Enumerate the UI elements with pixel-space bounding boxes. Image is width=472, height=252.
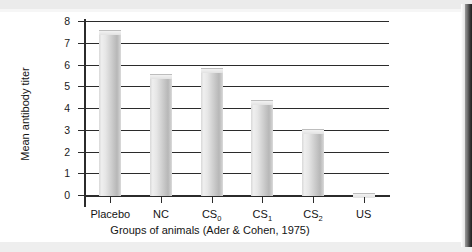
y-axis-tick-label: 2 [50, 147, 70, 157]
bar-top-cap [150, 75, 172, 79]
y-axis-tick-label: 7 [50, 38, 70, 48]
scan-band-top [0, 0, 472, 9]
bar-top-cap [201, 69, 223, 73]
x-axis-tick [262, 197, 263, 203]
bar [302, 129, 324, 196]
bar [150, 74, 172, 196]
y-axis-tick-label: 1 [50, 168, 70, 178]
y-axis-tick-label: 6 [50, 60, 70, 70]
y-axis-tick [78, 65, 85, 66]
bar-top-cap [251, 101, 273, 105]
x-axis-tick [110, 197, 111, 203]
x-axis-title: Groups of animals (Ader & Cohen, 1975) [0, 224, 420, 236]
y-axis-tick [78, 130, 85, 131]
bar [201, 68, 223, 196]
y-axis-tick-label: 0 [50, 190, 70, 200]
y-axis-tick [78, 152, 85, 153]
bar [99, 30, 121, 196]
x-axis-tick [313, 197, 314, 203]
x-axis-tick [212, 197, 213, 203]
y-axis-tick-label: 8 [50, 16, 70, 26]
y-axis-tick [78, 86, 85, 87]
x-axis-tick [161, 197, 162, 203]
scan-band-bottom [0, 242, 472, 252]
scanned-page: 012345678 PlaceboNCCS0CS1CS2US Groups of… [0, 0, 472, 252]
y-axis-tick-label: 5 [50, 81, 70, 91]
y-axis-tick [78, 195, 85, 196]
x-axis-tick [364, 197, 365, 203]
y-axis-tick-label: 3 [50, 125, 70, 135]
y-axis-tick [78, 21, 85, 22]
y-axis-tick [78, 43, 85, 44]
y-axis-tick [78, 173, 85, 174]
bar [251, 100, 273, 196]
bar-chart-figure: 012345678 PlaceboNCCS0CS1CS2US Groups of… [0, 12, 461, 242]
y-axis-title: Mean antibody titer [19, 39, 31, 189]
x-axis-category-label: US [324, 208, 404, 220]
scan-edge-shadow [465, 4, 472, 247]
x-axis-line [84, 195, 390, 197]
bar-top-cap [99, 31, 121, 35]
bar-top-cap [302, 130, 324, 134]
y-axis-tick-label: 4 [50, 103, 70, 113]
plot-area [85, 21, 389, 195]
y-axis-tick [78, 108, 85, 109]
